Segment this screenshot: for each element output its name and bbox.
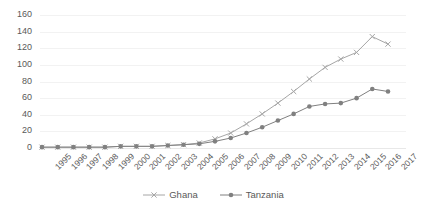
data-point-marker [338,56,343,61]
data-point-marker [354,50,359,55]
data-point-marker [244,121,249,126]
data-point-marker [339,101,344,106]
data-point-marker [166,143,171,148]
data-point-marker [181,142,186,147]
data-point-marker [150,144,155,149]
data-point-marker [260,125,265,130]
data-point-marker [260,111,265,116]
series-line [42,37,388,148]
data-point-marker [370,87,375,92]
data-point-marker [322,65,327,70]
data-point-marker [275,101,280,106]
line-chart: 020406080100120140160 199519961997199819… [0,0,427,211]
data-point-marker [354,96,359,101]
data-point-marker [323,102,328,107]
data-point-marker [291,89,296,94]
legend-x-marker-icon [143,190,165,200]
legend-label: Ghana [169,190,198,200]
legend-entry-ghana[interactable]: Ghana [143,190,198,200]
data-point-marker [87,145,92,150]
data-point-marker [276,118,281,123]
series-layer [0,0,427,211]
data-point-marker [307,76,312,81]
series-tanzania [40,87,391,150]
data-point-marker [370,34,375,39]
data-point-marker [71,145,76,150]
data-point-marker [307,104,312,109]
legend-entry-tanzania[interactable]: Tanzania [220,190,284,200]
data-point-marker [385,41,390,46]
legend-circle-marker-icon [220,190,242,200]
chart-legend: GhanaTanzania [0,190,427,200]
data-point-marker [213,139,218,144]
data-point-marker [134,144,139,149]
data-point-marker [228,136,233,141]
legend-label: Tanzania [246,190,284,200]
data-point-marker [197,142,202,147]
data-point-marker [55,145,60,150]
data-point-marker [228,130,233,135]
data-point-marker [244,131,249,136]
data-point-marker [118,144,123,149]
data-point-marker [291,112,296,117]
data-point-marker [386,89,391,94]
data-point-marker [40,145,45,150]
data-point-marker [103,145,108,150]
series-ghana [39,34,390,150]
